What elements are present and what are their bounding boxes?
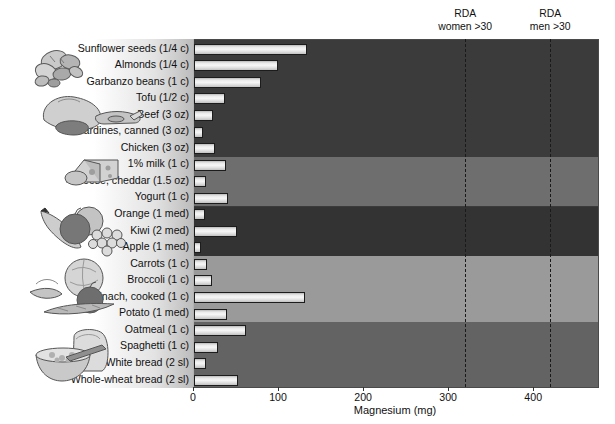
bar-row <box>194 58 598 75</box>
magnesium-bar-chart: Sunflower seeds (1/4 c)Almonds (1/4 c)Ga… <box>0 0 615 424</box>
bar-row <box>194 256 598 273</box>
plot-area <box>193 39 599 388</box>
bar-row <box>194 306 598 323</box>
cheese-icon <box>62 152 124 188</box>
x-tick-label: 400 <box>510 391 556 403</box>
bar-row <box>194 372 598 388</box>
bar <box>194 176 206 187</box>
bar <box>194 292 305 303</box>
bar-row <box>194 190 598 207</box>
bar-row <box>194 355 598 372</box>
bar-row <box>194 223 598 240</box>
bar-row <box>194 124 598 141</box>
bar <box>194 358 206 369</box>
rda-label-men: RDAmen >30 <box>490 8 610 33</box>
nuts-seeds-icon <box>30 48 102 90</box>
bar-row <box>194 289 598 306</box>
bar <box>194 242 201 253</box>
bar-row <box>194 322 598 339</box>
bar <box>194 60 278 71</box>
bar <box>194 275 212 286</box>
bar-row <box>194 157 598 174</box>
bar <box>194 226 237 237</box>
bar-row <box>194 91 598 108</box>
bar <box>194 93 225 104</box>
rda-line-women <box>465 39 466 387</box>
bar-row <box>194 273 598 290</box>
rda-line-men <box>550 39 551 387</box>
bar <box>194 259 207 270</box>
bar <box>194 325 246 336</box>
bar <box>194 193 228 204</box>
bar <box>194 44 307 55</box>
bread-cereal-icon <box>30 327 126 383</box>
bar-row <box>194 140 598 157</box>
bar <box>194 309 227 320</box>
bar <box>194 143 215 154</box>
rda-label-line2: men >30 <box>490 21 610 34</box>
x-tick-label: 100 <box>255 391 301 403</box>
bar-row <box>194 240 598 257</box>
bar <box>194 342 218 353</box>
category-label: Yogurt (1 c) <box>0 188 189 205</box>
bar-row <box>194 339 598 356</box>
vegetables-icon <box>28 258 133 316</box>
poultry-meat-icon <box>30 90 145 140</box>
bar <box>194 110 213 121</box>
bar <box>194 127 203 138</box>
rda-label-line1: RDA <box>539 8 561 19</box>
x-tick-label: 300 <box>425 391 471 403</box>
bar <box>194 77 261 88</box>
bar-row <box>194 74 598 91</box>
bar <box>194 375 238 386</box>
x-tick-label: 0 <box>170 391 216 403</box>
bar <box>194 160 226 171</box>
x-axis-title: Magnesium (mg) <box>193 404 597 416</box>
bar-row <box>194 41 598 58</box>
fruit-icon <box>35 205 130 257</box>
bar <box>194 209 205 220</box>
x-tick-label: 200 <box>340 391 386 403</box>
bar-row <box>194 207 598 224</box>
rda-label-line1: RDA <box>454 8 476 19</box>
bar-row <box>194 173 598 190</box>
bar-row <box>194 107 598 124</box>
